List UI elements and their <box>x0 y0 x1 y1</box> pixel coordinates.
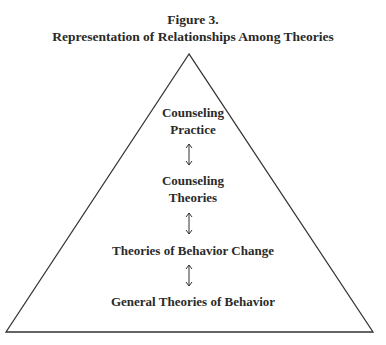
level-line: Practice <box>0 121 386 138</box>
level-counseling-practice: Counseling Practice <box>0 104 386 138</box>
level-line: Counseling <box>0 172 386 189</box>
level-line: Counseling <box>0 104 386 121</box>
level-behavior-change: Theories of Behavior Change <box>0 242 386 259</box>
level-line: Theories of Behavior Change <box>0 242 386 259</box>
double-arrow-icon <box>186 213 192 234</box>
double-arrow-icon <box>186 144 192 165</box>
level-counseling-theories: Counseling Theories <box>0 172 386 206</box>
level-line: Theories <box>0 189 386 206</box>
level-line: General Theories of Behavior <box>0 293 386 310</box>
double-arrow-icon <box>186 265 192 286</box>
level-general-behavior: General Theories of Behavior <box>0 293 386 310</box>
